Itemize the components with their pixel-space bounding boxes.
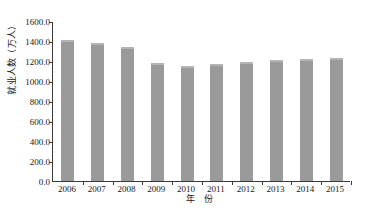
y-axis-tick-label: 400.0 (8, 138, 50, 147)
bar (91, 43, 104, 182)
x-axis-tick-label: 2010 (171, 184, 201, 194)
x-axis-tick-label: 2006 (52, 184, 82, 194)
x-axis-tick-label: 2007 (82, 184, 112, 194)
y-axis-tick-label: 800.0 (8, 98, 50, 107)
y-axis-tick-label: 1200.0 (8, 58, 50, 67)
y-axis-tick-label: 600.0 (8, 118, 50, 127)
y-axis-tick-label: 1400.0 (8, 38, 50, 47)
bar (151, 63, 164, 181)
bar (61, 40, 74, 182)
x-axis-tick-label: 2008 (112, 184, 142, 194)
x-axis-tick-label: 2015 (320, 184, 350, 194)
bar (210, 64, 223, 182)
x-axis-title: 年 份 (52, 194, 350, 205)
y-axis-tick-label: 1600.0 (8, 18, 50, 27)
bar (121, 47, 134, 181)
bar (330, 58, 343, 182)
x-axis-tick-label: 2011 (201, 184, 231, 194)
bar (300, 59, 313, 182)
bar (181, 66, 194, 181)
plot-area (52, 22, 350, 182)
y-axis-tick-label: 0.0 (8, 178, 50, 187)
x-axis-tick-label: 2013 (261, 184, 291, 194)
y-axis-tick-label: 1000.0 (8, 78, 50, 87)
x-axis-tick-mark (351, 181, 352, 185)
bar (270, 60, 283, 181)
y-axis-tick-label: 200.0 (8, 158, 50, 167)
x-axis-tick-label: 2009 (141, 184, 171, 194)
bar (240, 62, 253, 182)
x-axis-tick-label: 2012 (231, 184, 261, 194)
y-axis-tick-labels: 1600.01400.01200.01000.0800.0600.0400.02… (8, 16, 50, 188)
x-axis-tick-label: 2014 (290, 184, 320, 194)
bar-chart-figure: 就业人数（万人） 1600.01400.01200.01000.0800.060… (0, 0, 369, 208)
bars-layer (53, 22, 350, 181)
